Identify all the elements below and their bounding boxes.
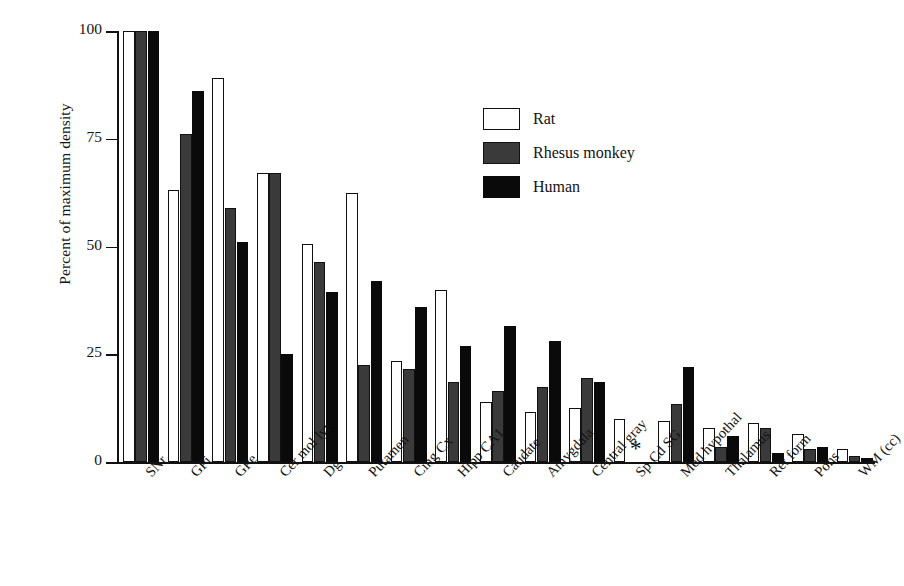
y-axis-tick-label: 75: [87, 128, 103, 146]
bar-human: [192, 91, 204, 462]
bar-human: [281, 354, 293, 462]
legend-swatch-human: [483, 176, 520, 198]
bar-rat: [168, 190, 180, 462]
y-axis-title: Percent of maximum density: [56, 44, 74, 344]
bar-group: [346, 31, 382, 462]
bar-rhesus: [849, 456, 861, 462]
bar-rhesus: [804, 449, 816, 462]
plot-area: 0255075100 * SNrGPiGPeCer mol lyrDgPutam…: [117, 31, 875, 462]
bar-human: [148, 31, 160, 462]
bar-series-container: *: [117, 31, 875, 462]
legend-swatch-rhesus: [483, 142, 520, 164]
bar-human: [549, 341, 561, 462]
bar-human: [415, 307, 427, 462]
bar-group: [658, 31, 694, 462]
legend-item: Human: [483, 172, 703, 202]
bar-group: [792, 31, 828, 462]
bar-group: *: [614, 31, 650, 462]
bar-human: [237, 242, 249, 462]
x-axis-line: [117, 462, 875, 464]
bar-human: [460, 346, 472, 462]
bar-rhesus: [225, 208, 237, 462]
chart-legend: RatRhesus monkeyHuman: [483, 104, 703, 206]
legend-label: Rat: [533, 110, 555, 128]
y-axis-tick-mark: [106, 247, 117, 249]
bar-rhesus: [135, 31, 147, 462]
y-axis-tick-mark: [106, 354, 117, 356]
bar-rat: [123, 31, 135, 462]
bar-group: [212, 31, 248, 462]
y-axis-tick-mark: [106, 139, 117, 141]
bar-rhesus: [180, 134, 192, 462]
bar-group: [525, 31, 561, 462]
bar-group: [302, 31, 338, 462]
bar-human: [683, 367, 695, 462]
y-axis-tick-label: 50: [87, 236, 103, 254]
legend-label: Human: [533, 178, 580, 196]
bar-group: [837, 31, 873, 462]
bar-rhesus: [269, 173, 281, 462]
bar-group: [480, 31, 516, 462]
bar-group: [257, 31, 293, 462]
bar-group: [435, 31, 471, 462]
legend-item: Rhesus monkey: [483, 138, 703, 168]
bar-human: [371, 281, 383, 462]
bar-rat: [346, 193, 358, 462]
bar-rhesus: [358, 365, 370, 462]
y-axis-tick-label: 100: [79, 20, 102, 38]
bar-group: [391, 31, 427, 462]
bar-group: [748, 31, 784, 462]
legend-swatch-rat: [483, 108, 520, 130]
y-axis-tick-label: 25: [87, 343, 103, 361]
bar-rat: [257, 173, 269, 462]
bar-group: [168, 31, 204, 462]
y-axis-tick-mark: [106, 462, 117, 464]
legend-item: Rat: [483, 104, 703, 134]
y-axis-tick-mark: [106, 31, 117, 33]
bar-rat: [212, 78, 224, 462]
bar-group: [703, 31, 739, 462]
bar-group: [123, 31, 159, 462]
legend-label: Rhesus monkey: [533, 144, 635, 162]
bar-human: [504, 326, 516, 462]
bar-human: [594, 382, 606, 462]
bar-group: [569, 31, 605, 462]
y-axis-tick-label: 0: [94, 451, 102, 469]
